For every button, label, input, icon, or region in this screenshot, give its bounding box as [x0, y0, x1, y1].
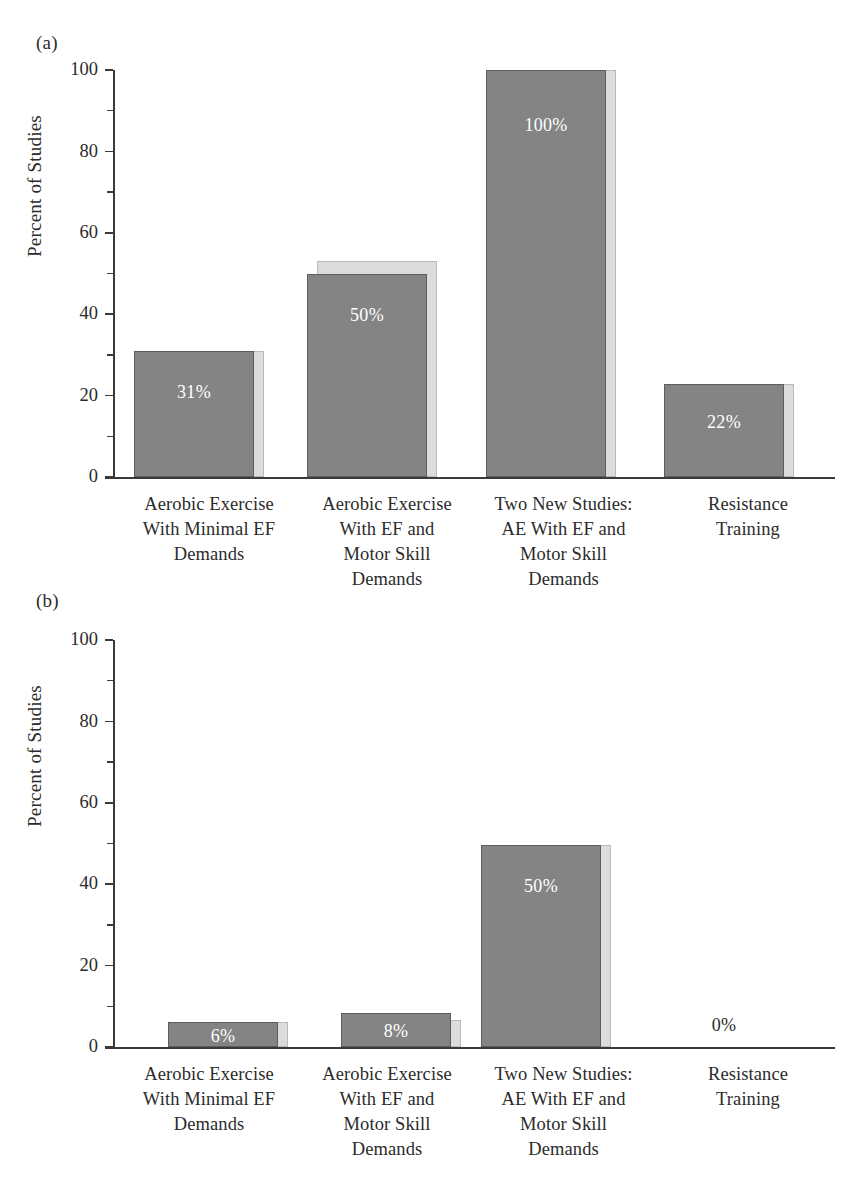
panel-a-bar-2-value: 100%: [487, 115, 605, 136]
panel-a-plot-area: 0 20 40 60 80 100 31%: [113, 70, 835, 477]
panel-a-tick-60: 60: [105, 232, 113, 234]
panel-b-category-2: Two New Studies:AE With EF andMotor Skil…: [471, 1062, 656, 1162]
panel-b-x-axis-line: [105, 1047, 835, 1049]
panel-b-minor-tick-30: [107, 924, 113, 926]
panel-a-bar-1-face: 50%: [307, 274, 427, 478]
panel-b-minor-tick-50: [107, 843, 113, 845]
panel-a-tick-label-20: 20: [80, 384, 99, 405]
panel-b-y-axis-label: Percent of Studies: [24, 685, 46, 827]
panel-b-minor-tick-10: [107, 1006, 113, 1008]
panel-b-category-3: ResistanceTraining: [658, 1062, 838, 1112]
panel-a-tick-label-0: 0: [89, 466, 98, 487]
panel-b-tick-20: 20: [105, 965, 113, 967]
panel-a-minor-tick-50: [107, 273, 113, 275]
panel-a: (a) Percent of Studies 0 20 40 60 80 100: [0, 0, 857, 600]
panel-b: (b) Percent of Studies 0 20 40 60 80 100: [0, 570, 857, 1195]
panel-b-category-0: Aerobic ExerciseWith Minimal EFDemands: [119, 1062, 299, 1137]
panel-b-tick-0: 0: [105, 1046, 113, 1048]
panel-a-bar-0-value: 31%: [135, 382, 253, 403]
panel-b-bar-1-face: 8%: [341, 1013, 451, 1048]
panel-a-bar-0-face: 31%: [134, 351, 254, 477]
panel-a-bar-3-face: 22%: [664, 384, 784, 477]
panel-a-minor-tick-70: [107, 191, 113, 193]
panel-b-bar-2-face: 50%: [481, 845, 601, 1047]
panel-a-tick-label-80: 80: [80, 140, 99, 161]
panel-b-bar-2: 50%: [481, 640, 601, 1047]
panel-b-y-axis-line: [113, 640, 115, 1047]
panel-a-tick-0: 0: [105, 476, 113, 478]
panel-a-minor-tick-90: [107, 110, 113, 112]
panel-b-tick-60: 60: [105, 802, 113, 804]
panel-a-category-0: Aerobic ExerciseWith Minimal EFDemands: [119, 492, 299, 567]
panel-a-x-axis-line: [105, 477, 835, 479]
panel-a-tick-label-60: 60: [80, 222, 99, 243]
panel-b-tick-100: 100: [105, 639, 113, 641]
panel-b-tick-80: 80: [105, 721, 113, 723]
panel-b-letter: (b): [36, 590, 59, 612]
panel-b-plot-area: 0 20 40 60 80 100 6%: [113, 640, 835, 1047]
panel-a-tick-label-40: 40: [80, 303, 99, 324]
panel-b-category-1: Aerobic ExerciseWith EF andMotor SkillDe…: [297, 1062, 477, 1162]
panel-a-bar-2-face: 100%: [486, 70, 606, 477]
panel-a-minor-tick-10: [107, 436, 113, 438]
panel-b-tick-label-80: 80: [80, 710, 99, 731]
panel-a-bar-1: 50%: [307, 70, 427, 477]
panel-a-bar-3-value: 22%: [665, 412, 783, 433]
panel-b-bar-1: 8%: [341, 640, 451, 1047]
figure-page: { "figure": { "panels": [ { "letter": "(…: [0, 0, 857, 1195]
panel-a-letter: (a): [36, 32, 58, 54]
panel-a-tick-80: 80: [105, 151, 113, 153]
panel-a-bar-2: 100%: [486, 70, 606, 477]
panel-b-bar-0: 6%: [168, 640, 278, 1047]
panel-a-minor-tick-30: [107, 354, 113, 356]
panel-b-tick-label-40: 40: [80, 873, 99, 894]
panel-b-tick-40: 40: [105, 883, 113, 885]
panel-a-y-axis-line: [113, 70, 115, 477]
panel-b-minor-tick-70: [107, 761, 113, 763]
panel-a-y-axis-label: Percent of Studies: [24, 115, 46, 257]
panel-a-tick-20: 20: [105, 395, 113, 397]
panel-b-bar-3: 0%: [664, 640, 784, 1047]
panel-b-bar-0-value: 6%: [169, 1026, 277, 1047]
panel-a-bar-0: 31%: [134, 70, 254, 477]
panel-a-bar-1-value: 50%: [308, 305, 426, 326]
panel-b-tick-label-60: 60: [80, 792, 99, 813]
panel-a-tick-40: 40: [105, 313, 113, 315]
panel-b-tick-label-0: 0: [89, 1036, 98, 1057]
panel-a-tick-100: 100: [105, 69, 113, 71]
panel-a-category-3: ResistanceTraining: [658, 492, 838, 542]
panel-b-minor-tick-90: [107, 680, 113, 682]
panel-b-bar-2-value: 50%: [482, 876, 600, 897]
panel-b-bar-0-face: 6%: [168, 1022, 278, 1048]
panel-b-tick-label-20: 20: [80, 954, 99, 975]
panel-b-bar-1-value: 8%: [342, 1021, 450, 1042]
panel-b-bar-3-value: 0%: [664, 1015, 784, 1036]
panel-b-tick-label-100: 100: [70, 629, 98, 650]
panel-a-bar-3: 22%: [664, 70, 784, 477]
panel-a-tick-label-100: 100: [70, 59, 98, 80]
